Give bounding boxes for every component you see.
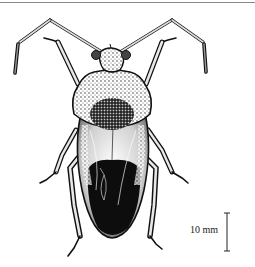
- scale-bar-icon: [222, 212, 232, 252]
- foreleg-right: [146, 38, 176, 84]
- pronotum: [73, 70, 152, 130]
- hindleg-right: [146, 158, 162, 249]
- foreleg-left: [44, 38, 78, 84]
- scale-label: 10 mm: [190, 224, 218, 235]
- hemelytra: [77, 118, 148, 238]
- hindleg-left: [68, 158, 80, 256]
